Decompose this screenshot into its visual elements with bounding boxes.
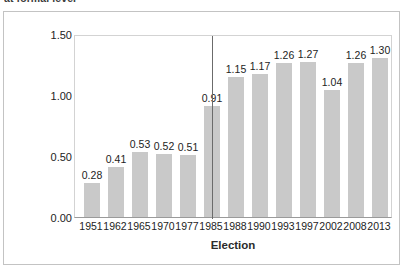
bar-slot: 0.51 (176, 34, 200, 217)
bar-1951[interactable] (84, 183, 100, 217)
cut-off-caption-text: at formal level (4, 0, 304, 6)
bar-slot: 0.52 (152, 34, 176, 217)
bar-1997[interactable] (300, 62, 316, 217)
bar-value-label-1951: 0.28 (77, 169, 107, 181)
x-axis-tick-labels: 1951196219651970197719851988199019931997… (74, 220, 392, 236)
chart-figure-frame: Dynastic candidate per seat 0.000.501.00… (3, 11, 400, 265)
bar-slot: 0.41 (104, 34, 128, 217)
bar-value-label-2002: 1.04 (317, 76, 347, 88)
bar-slot: 1.30 (368, 34, 392, 217)
bar-slot: 1.27 (296, 34, 320, 217)
bar-1965[interactable] (132, 152, 148, 217)
bar-2002[interactable] (324, 90, 340, 217)
x-axis-title: Election (74, 239, 392, 251)
bars-layer: 0.280.410.530.520.510.911.151.171.261.27… (75, 36, 391, 217)
vertical-marker-line (212, 36, 213, 219)
bar-slot: 0.53 (128, 34, 152, 217)
bar-1990[interactable] (252, 74, 268, 217)
bar-slot: 1.04 (320, 34, 344, 217)
bar-value-label-1990: 1.17 (245, 60, 275, 72)
bar-slot: 1.26 (344, 34, 368, 217)
bar-1970[interactable] (156, 154, 172, 217)
bar-value-label-1977: 0.51 (173, 141, 203, 153)
bar-slot: 0.28 (80, 34, 104, 217)
plot-area: 0.280.410.530.520.510.911.151.171.261.27… (74, 35, 392, 218)
y-axis-tick-0.50: 0.50 (36, 151, 72, 163)
bar-2013[interactable] (372, 58, 388, 217)
y-axis-tick-1.00: 1.00 (36, 90, 72, 102)
bar-2008[interactable] (348, 63, 364, 217)
y-axis-tick-labels: 0.000.501.001.50 (36, 35, 72, 225)
bar-1993[interactable] (276, 63, 292, 217)
bar-1988[interactable] (228, 77, 244, 217)
bar-slot: 1.17 (248, 34, 272, 217)
bar-value-label-1997: 1.27 (293, 48, 323, 60)
bar-1977[interactable] (180, 155, 196, 217)
bar-value-label-2013: 1.30 (365, 44, 395, 56)
x-axis-tick-2013: 2013 (364, 220, 394, 232)
bar-1962[interactable] (108, 167, 124, 217)
y-axis-tick-0.00: 0.00 (36, 212, 72, 224)
bar-slot: 1.26 (272, 34, 296, 217)
y-axis-tick-1.50: 1.50 (36, 29, 72, 41)
bar-value-label-1962: 0.41 (101, 153, 131, 165)
